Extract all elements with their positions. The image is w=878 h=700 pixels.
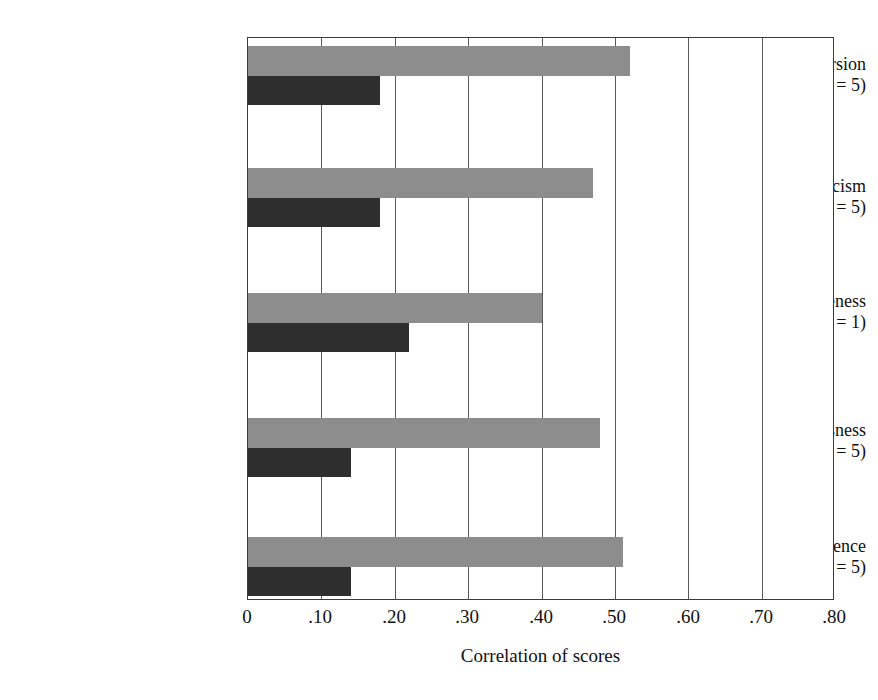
bar-conscientiousness-dark (248, 448, 351, 477)
xtick-0.80: .80 (822, 606, 846, 628)
xtick-0.10: .10 (308, 606, 332, 628)
bar-agreeableness-dark (248, 323, 409, 352)
xtick-0.70: .70 (749, 606, 773, 628)
xtick-0.40: .40 (529, 606, 553, 628)
bar-openness-dark (248, 567, 351, 596)
xtick-0.60: .60 (676, 606, 700, 628)
bar-extraversion-dark (248, 76, 380, 105)
bar-agreeableness-light (248, 293, 542, 323)
xtick-0.50: .50 (602, 606, 626, 628)
bar-neuroticism-dark (248, 198, 380, 227)
xtick-0.30: .30 (455, 606, 479, 628)
xtick-0: 0 (242, 606, 252, 628)
bar-neuroticism-light (248, 168, 593, 198)
bar-extraversion-light (248, 46, 630, 76)
bar-conscientiousness-light (248, 418, 600, 448)
x-axis-title: Correlation of scores (247, 645, 834, 667)
chart-page: Extraversion (N = 5) Neuroticism (N = 5)… (0, 0, 878, 700)
bar-openness-light (248, 537, 623, 567)
gridline-0.40 (542, 38, 543, 599)
plot-area (247, 37, 834, 600)
xtick-0.20: .20 (382, 606, 406, 628)
gridline-0.70 (762, 38, 763, 599)
gridline-0.50 (615, 38, 616, 599)
gridline-0.60 (688, 38, 689, 599)
